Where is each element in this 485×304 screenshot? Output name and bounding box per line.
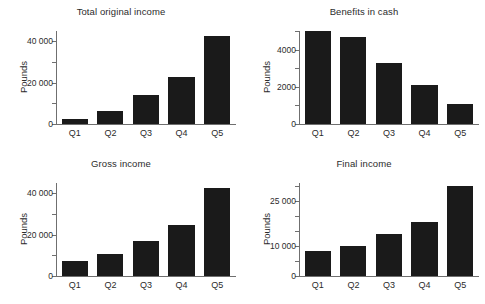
bar <box>204 188 230 276</box>
x-axis-tick-label: Q1 <box>69 280 81 290</box>
y-axis-tick-label: 0 <box>291 271 296 281</box>
y-axis-tick-label: 0 <box>48 119 53 129</box>
x-axis-tick-label: Q5 <box>211 280 223 290</box>
y-axis-tick-label: 20 000 <box>27 78 53 88</box>
chart-panel-total-original-income: Total original income Pounds 020 00040 0… <box>0 0 242 152</box>
x-axis-line <box>56 124 236 125</box>
y-axis-tick <box>295 216 299 217</box>
bar <box>411 222 437 276</box>
y-axis-tick <box>52 103 56 104</box>
bar <box>133 241 159 276</box>
y-axis-tick-label: 25 000 <box>270 196 296 206</box>
y-axis-title: Pounds <box>261 61 272 93</box>
x-axis-tick-label: Q1 <box>312 280 324 290</box>
y-axis-tick <box>52 214 56 215</box>
panel-title: Final income <box>243 158 485 169</box>
bar <box>133 95 159 124</box>
x-axis-tick-label: Q2 <box>104 280 116 290</box>
bar <box>305 251 331 277</box>
y-axis-tick-label: 40 000 <box>27 36 53 46</box>
y-axis-tick <box>295 186 299 187</box>
plot-area: Pounds 010 00025 000 Q1Q2Q3Q4Q5 <box>300 183 478 276</box>
x-axis-tick-label: Q5 <box>211 128 223 138</box>
bar <box>97 111 123 124</box>
x-axis-tick-label: Q3 <box>140 280 152 290</box>
x-axis-tick-label: Q4 <box>176 280 188 290</box>
bar <box>305 31 331 124</box>
x-axis-tick-label: Q3 <box>383 128 395 138</box>
y-axis-tick <box>295 231 299 232</box>
y-axis-tick <box>295 31 299 32</box>
figure-panel-grid: Total original income Pounds 020 00040 0… <box>0 0 485 304</box>
bar-group <box>57 183 235 276</box>
bar <box>447 186 473 276</box>
bar-group <box>57 31 235 124</box>
panel-title: Gross income <box>0 158 242 169</box>
bar-group <box>300 31 478 124</box>
x-axis-tick-label: Q4 <box>176 128 188 138</box>
plot-area: Pounds 020 00040 000 Q1Q2Q3Q4Q5 <box>57 31 235 124</box>
y-axis-tick-label: 0 <box>291 119 296 129</box>
bar <box>376 63 402 124</box>
y-axis-tick <box>295 105 299 106</box>
y-axis-tick-label: 20 000 <box>27 230 53 240</box>
bar-group <box>300 183 478 276</box>
x-axis-tick-label: Q4 <box>419 280 431 290</box>
x-axis-tick-label: Q1 <box>69 128 81 138</box>
bar <box>447 104 473 125</box>
y-axis-tick-label: 10 000 <box>270 241 296 251</box>
x-axis-tick-label: Q2 <box>347 280 359 290</box>
chart-panel-final-income: Final income Pounds 010 00025 000 Q1Q2Q3… <box>243 152 485 304</box>
x-axis-tick-label: Q2 <box>104 128 116 138</box>
bar <box>340 37 366 124</box>
bar <box>340 246 366 276</box>
bar <box>411 85 437 124</box>
y-axis-tick <box>52 62 56 63</box>
y-axis-tick <box>295 261 299 262</box>
bar <box>62 261 88 277</box>
panel-title: Benefits in cash <box>243 6 485 17</box>
panel-title: Total original income <box>0 6 242 17</box>
x-axis-tick-label: Q2 <box>347 128 359 138</box>
y-axis-tick-label: 2000 <box>277 82 296 92</box>
y-axis-tick <box>295 68 299 69</box>
chart-panel-gross-income: Gross income Pounds 020 00040 000 Q1Q2Q3… <box>0 152 242 304</box>
bar <box>168 225 194 276</box>
x-axis-line <box>299 276 479 277</box>
plot-area: Pounds 020004000 Q1Q2Q3Q4Q5 <box>300 31 478 124</box>
x-axis-tick-label: Q3 <box>140 128 152 138</box>
bar <box>62 119 88 124</box>
y-axis-tick-label: 0 <box>48 271 53 281</box>
x-axis-line <box>56 276 236 277</box>
x-axis-tick-label: Q3 <box>383 280 395 290</box>
x-axis-tick-label: Q5 <box>454 280 466 290</box>
bar <box>204 36 230 124</box>
bar <box>168 77 194 125</box>
y-axis-tick <box>52 255 56 256</box>
x-axis-tick-label: Q4 <box>419 128 431 138</box>
bar <box>97 254 123 276</box>
x-axis-line <box>299 124 479 125</box>
y-axis-tick-label: 4000 <box>277 45 296 55</box>
plot-area: Pounds 020 00040 000 Q1Q2Q3Q4Q5 <box>57 183 235 276</box>
x-axis-tick-label: Q1 <box>312 128 324 138</box>
bar <box>376 234 402 276</box>
y-axis-tick-label: 40 000 <box>27 188 53 198</box>
x-axis-tick-label: Q5 <box>454 128 466 138</box>
chart-panel-benefits-in-cash: Benefits in cash Pounds 020004000 Q1Q2Q3… <box>243 0 485 152</box>
